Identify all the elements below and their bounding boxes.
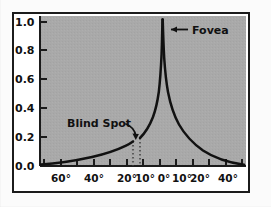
x-tick-label: 60° [51, 172, 71, 184]
blind-spot-label: Blind Spot [67, 117, 131, 130]
x-tick-label: 20° [117, 172, 137, 184]
x-tick-label: 0° [158, 172, 171, 184]
y-tick-label: 0.0 [15, 160, 35, 173]
x-tick-label: 20° [190, 172, 210, 184]
x-tick-label: 10° [172, 172, 192, 184]
x-tick-label: 40° [218, 172, 238, 184]
y-tick-label: 1.0 [15, 16, 35, 29]
y-tick-label: 0.2 [15, 131, 35, 144]
plot-area-texture [40, 16, 246, 166]
figure-root: 1.0 0.8 0.6 0.4 0.2 0.0 [0, 0, 271, 207]
y-tick-label: 0.8 [15, 44, 35, 57]
chart-frame: 1.0 0.8 0.6 0.4 0.2 0.0 [12, 12, 250, 193]
fovea-label: Fovea [192, 24, 229, 37]
x-tick-label: 40° [84, 172, 104, 184]
x-tick-label: 10° [135, 172, 155, 184]
y-tick-label: 0.6 [15, 73, 35, 86]
y-tick-label: 0.4 [15, 102, 35, 115]
visual-acuity-chart: 1.0 0.8 0.6 0.4 0.2 0.0 [14, 14, 248, 191]
